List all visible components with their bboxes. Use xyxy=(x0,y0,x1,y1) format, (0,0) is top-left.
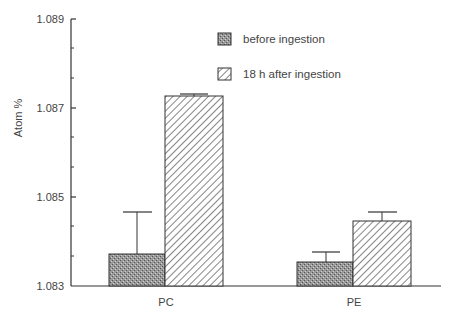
bar-pc-after xyxy=(165,96,223,286)
legend-swatch-stipple-icon xyxy=(218,33,231,45)
legend: before ingestion 18 h after ingestion xyxy=(218,33,341,80)
x-category-label: PE xyxy=(347,296,362,308)
y-tick-label: 1.085 xyxy=(36,191,64,203)
bar-pe-after xyxy=(353,221,411,286)
bar-group-pc xyxy=(109,94,223,286)
bar-chart: 1.089 1.087 1.085 1.083 Atom % PC PE bef… xyxy=(0,0,459,320)
x-category-label: PC xyxy=(158,296,173,308)
bar-pc-before xyxy=(109,254,165,286)
legend-swatch-hatch-icon xyxy=(218,68,231,80)
bar-group-pe xyxy=(297,212,411,286)
bar-pe-before xyxy=(297,262,353,286)
y-axis-title: Atom % xyxy=(12,99,24,138)
y-tick-label: 1.087 xyxy=(36,102,64,114)
y-axis: 1.089 1.087 1.085 1.083 Atom % xyxy=(12,13,76,292)
y-tick-label: 1.083 xyxy=(36,280,64,292)
y-tick-label: 1.089 xyxy=(36,13,64,25)
legend-label: 18 h after ingestion xyxy=(243,68,341,80)
legend-label: before ingestion xyxy=(243,33,325,45)
